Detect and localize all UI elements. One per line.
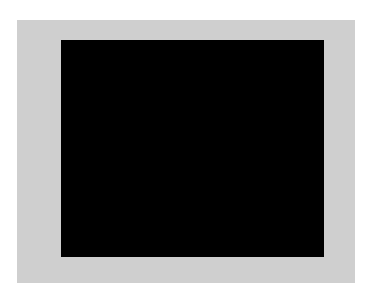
matrix-plot xyxy=(61,40,324,257)
